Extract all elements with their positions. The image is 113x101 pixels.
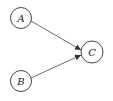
dag-diagram: A B C: [0, 0, 113, 101]
node-b-label: B: [16, 76, 24, 87]
edge-a-c: [31, 21, 81, 50]
node-b: B: [11, 71, 32, 92]
edge-b-c: [31, 55, 81, 78]
node-c: C: [81, 41, 103, 63]
node-a: A: [11, 8, 32, 29]
node-a-label: A: [16, 13, 24, 24]
node-c-label: C: [88, 47, 96, 58]
